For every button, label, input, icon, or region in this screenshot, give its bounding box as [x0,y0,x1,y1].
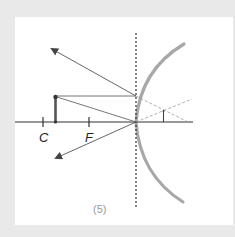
label-f: F [85,131,93,144]
label-c: C [39,131,48,144]
incident-ray-vertex [57,97,136,122]
convex-mirror [136,44,184,202]
figure-caption: (5) [93,204,106,215]
reflected-ray-upper [52,49,136,96]
ray-diagram [0,0,235,237]
object-top-dot [53,95,57,99]
object-base-dot [54,120,57,123]
reflected-ray-lower [56,122,136,158]
image-top-dot [163,110,165,112]
